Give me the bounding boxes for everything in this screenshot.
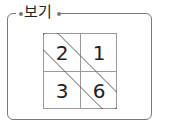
diagonal-loop-highlight <box>43 33 117 109</box>
box-title: 보기 <box>24 3 52 21</box>
bullet-dot-right <box>57 12 61 16</box>
bullet-dot-left <box>19 12 23 16</box>
